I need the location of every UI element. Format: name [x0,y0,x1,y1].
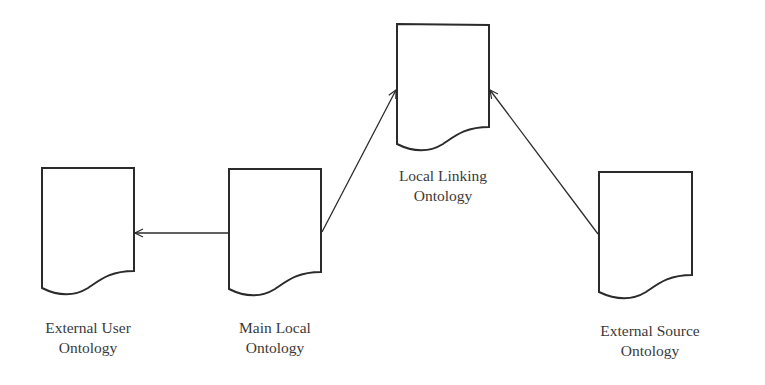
label-local-linking-line2: Ontology [363,186,523,206]
document-icon-main-local [229,169,321,295]
document-icon-local-linking [397,24,489,150]
label-main-local-line2: Ontology [195,338,355,358]
label-external-source-line2: Ontology [565,341,735,361]
label-main-local-line1: Main Local [195,318,355,338]
label-external-user-line1: External User [8,318,168,338]
label-external-user: External User Ontology [8,318,168,358]
label-external-source: External Source Ontology [565,321,735,361]
label-external-source-line1: External Source [565,321,735,341]
document-icon-external-user [42,168,134,294]
label-main-local: Main Local Ontology [195,318,355,358]
label-local-linking-line1: Local Linking [363,166,523,186]
document-icon-external-source [599,172,692,298]
label-local-linking: Local Linking Ontology [363,166,523,206]
arrow-main-local-to-local-linking [322,90,396,232]
arrow-external-source-to-local-linking [490,90,598,234]
label-external-user-line2: Ontology [8,338,168,358]
